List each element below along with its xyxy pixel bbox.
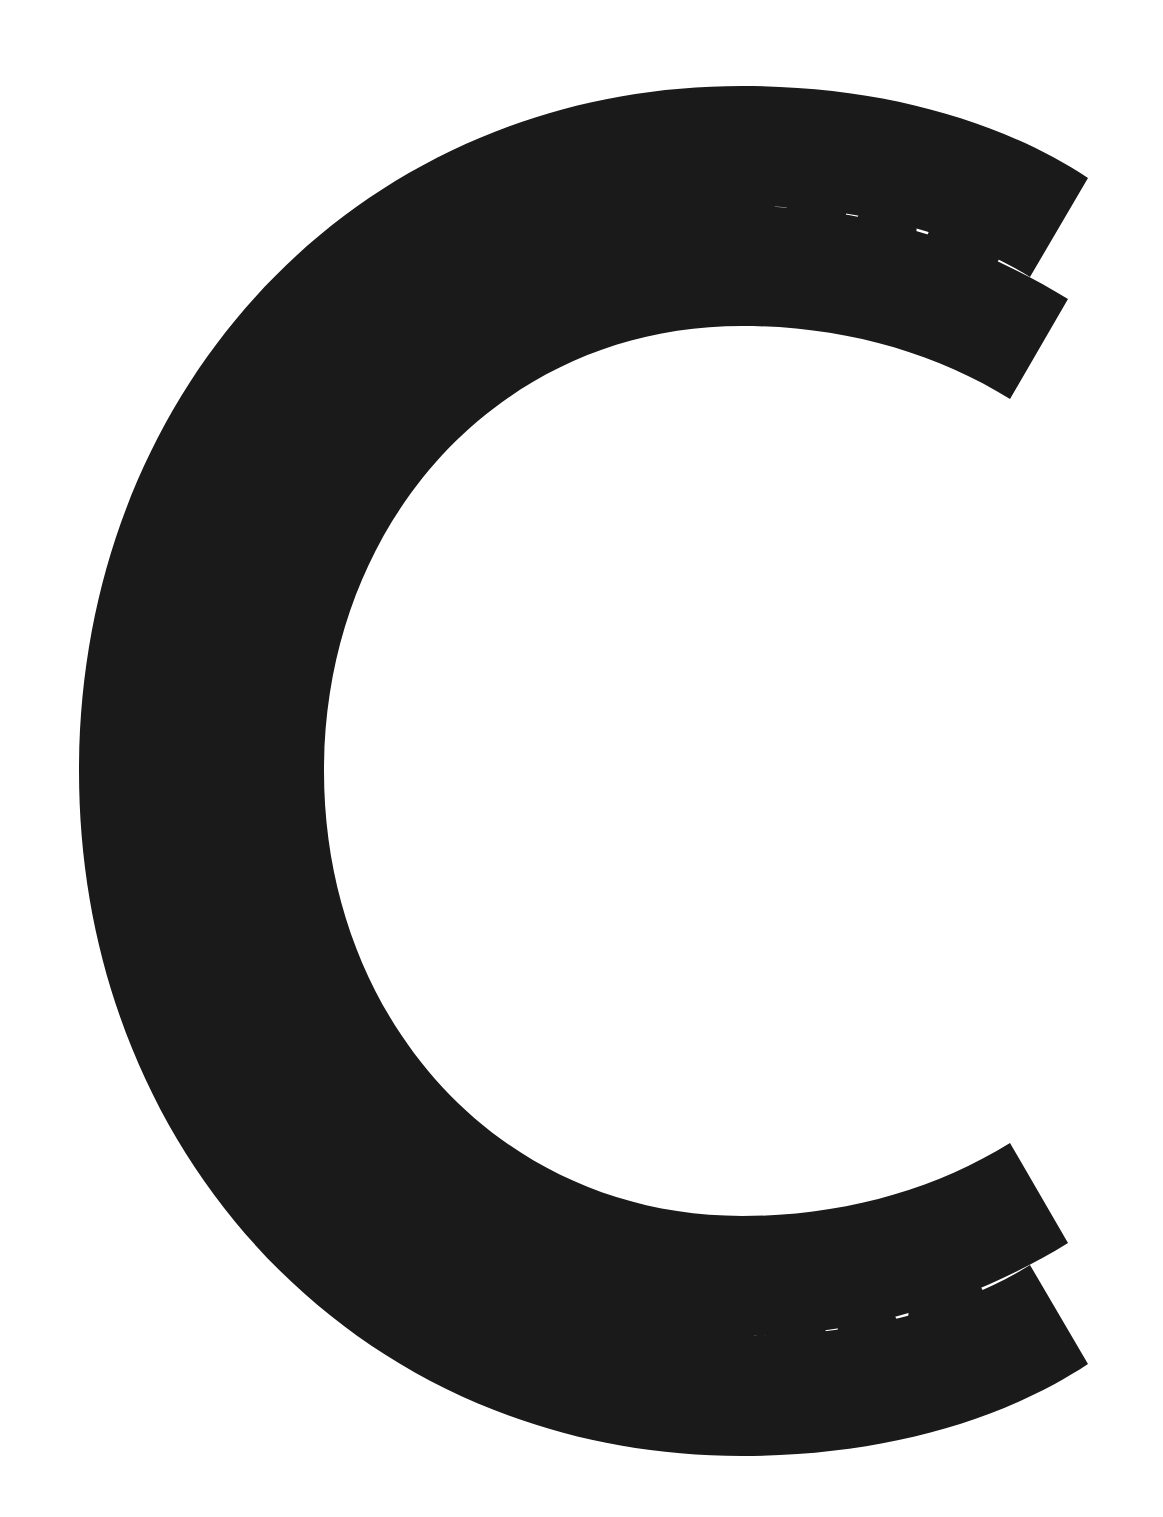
top-start-dot: [955, 227, 1001, 273]
letter-c-tracing-graphic: Large hollow capital letter C with a das…: [0, 0, 1163, 1517]
worksheet-page: Letter C Tracing Worksheet Large hollow …: [0, 0, 1163, 1517]
bottom-start-dot: [939, 1277, 985, 1323]
